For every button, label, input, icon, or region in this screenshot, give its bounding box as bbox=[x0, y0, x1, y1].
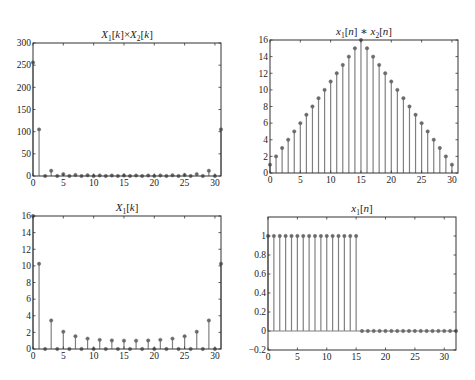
stem-marker bbox=[413, 329, 416, 332]
stem-marker bbox=[371, 55, 374, 58]
stem-marker bbox=[408, 105, 411, 108]
stem-marker bbox=[305, 113, 308, 116]
stem-marker bbox=[37, 262, 40, 265]
stem-marker bbox=[448, 329, 451, 332]
x-tick-label: 10 bbox=[89, 351, 99, 361]
stem-marker bbox=[437, 329, 440, 332]
stem-marker bbox=[396, 329, 399, 332]
stem-marker bbox=[98, 174, 101, 177]
x-tick-label: 5 bbox=[298, 175, 303, 185]
stem-plot-circular-convolution: 0510152025300246810121416x1[n] ∗ x2[n] bbox=[259, 25, 459, 185]
stem-marker bbox=[278, 234, 281, 237]
x-tick-label: 15 bbox=[351, 352, 361, 362]
stem-marker bbox=[49, 169, 52, 172]
stem-marker bbox=[323, 88, 326, 91]
y-tick-label: 0.6 bbox=[254, 269, 266, 279]
stem-marker bbox=[450, 163, 453, 166]
stem-marker bbox=[360, 329, 363, 332]
stem-marker bbox=[331, 234, 334, 237]
y-tick-label: 200 bbox=[17, 83, 32, 93]
stem-marker bbox=[337, 234, 340, 237]
y-tick-label: 8 bbox=[26, 278, 31, 288]
x-tick-label: 10 bbox=[326, 175, 336, 185]
x-tick-label: 10 bbox=[322, 352, 332, 362]
axes-frame bbox=[33, 43, 221, 176]
x-tick-label: 30 bbox=[210, 178, 220, 188]
stem-marker bbox=[86, 337, 89, 340]
y-tick-label: 300 bbox=[17, 38, 32, 48]
y-tick-label: 12 bbox=[259, 69, 269, 79]
x-tick-label: 25 bbox=[417, 175, 427, 185]
y-tick-label: 2 bbox=[263, 152, 268, 162]
stem-marker bbox=[372, 329, 375, 332]
y-tick-label: 0 bbox=[261, 326, 266, 336]
y-tick-label: 4 bbox=[263, 135, 268, 145]
stem-marker bbox=[432, 138, 435, 141]
stem-marker bbox=[365, 47, 368, 50]
y-tick-label: 10 bbox=[259, 85, 269, 95]
x-tick-label: 10 bbox=[89, 178, 99, 188]
stem-marker bbox=[311, 105, 314, 108]
stem-marker bbox=[98, 338, 101, 341]
stem-marker bbox=[299, 121, 302, 124]
stem-marker bbox=[171, 337, 174, 340]
stem-marker bbox=[183, 335, 186, 338]
stem-marker bbox=[366, 329, 369, 332]
stem-marker bbox=[390, 80, 393, 83]
stem-marker bbox=[195, 330, 198, 333]
plot-title: x1[n] ∗ x2[n] bbox=[335, 25, 392, 40]
stem-marker bbox=[419, 329, 422, 332]
stem-marker bbox=[347, 55, 350, 58]
stem-marker bbox=[293, 130, 296, 133]
plot-title: X1[k] bbox=[115, 201, 139, 216]
stem-marker bbox=[420, 121, 423, 124]
stem-marker bbox=[280, 146, 283, 149]
axes-frame bbox=[33, 216, 221, 349]
y-tick-label: 16 bbox=[259, 35, 269, 45]
y-tick-label: 100 bbox=[17, 127, 32, 137]
x-tick-label: 25 bbox=[180, 178, 190, 188]
stem-marker bbox=[329, 80, 332, 83]
stem-marker bbox=[296, 234, 299, 237]
x-tick-label: 15 bbox=[356, 175, 366, 185]
y-tick-label: −0.2 bbox=[249, 345, 266, 355]
stem-marker bbox=[313, 234, 316, 237]
plot-title: X1[k]×X2[k] bbox=[100, 28, 153, 43]
stem-marker bbox=[207, 319, 210, 322]
stem-marker bbox=[37, 128, 40, 131]
x-tick-label: 25 bbox=[410, 352, 420, 362]
stem-marker bbox=[290, 234, 293, 237]
x-tick-label: 25 bbox=[180, 351, 190, 361]
stem-marker bbox=[384, 329, 387, 332]
stem-marker bbox=[390, 329, 393, 332]
stem-marker bbox=[431, 329, 434, 332]
stem-marker bbox=[353, 47, 356, 50]
y-tick-label: 16 bbox=[22, 211, 32, 221]
x-tick-label: 20 bbox=[387, 175, 397, 185]
x-tick-label: 30 bbox=[447, 175, 457, 185]
y-tick-label: 14 bbox=[259, 52, 269, 62]
y-tick-label: 4 bbox=[26, 311, 31, 321]
stem-marker bbox=[401, 329, 404, 332]
x-tick-label: 0 bbox=[266, 352, 271, 362]
stem-marker bbox=[425, 329, 428, 332]
y-tick-label: 14 bbox=[22, 228, 32, 238]
stem-marker bbox=[377, 63, 380, 66]
plot-title: x1[n] bbox=[350, 202, 372, 217]
stem-marker bbox=[110, 339, 113, 342]
stem-marker bbox=[335, 72, 338, 75]
y-tick-label: 6 bbox=[26, 294, 31, 304]
stem-plot-x1k: 0510152025300246810121416X1[k] bbox=[22, 201, 223, 361]
stem-plot-x1n: 051015202530−0.200.20.40.60.81x1[n] bbox=[249, 202, 458, 362]
y-tick-label: 1 bbox=[261, 231, 266, 241]
stem-marker bbox=[384, 72, 387, 75]
x-tick-label: 20 bbox=[381, 352, 391, 362]
y-tick-label: 12 bbox=[22, 245, 32, 255]
stem-marker bbox=[302, 234, 305, 237]
y-tick-label: 0.2 bbox=[254, 307, 266, 317]
stem-marker bbox=[159, 338, 162, 341]
y-tick-label: 8 bbox=[263, 102, 268, 112]
y-tick-label: 0.4 bbox=[254, 288, 266, 298]
stem-marker bbox=[134, 339, 137, 342]
stem-marker bbox=[407, 329, 410, 332]
